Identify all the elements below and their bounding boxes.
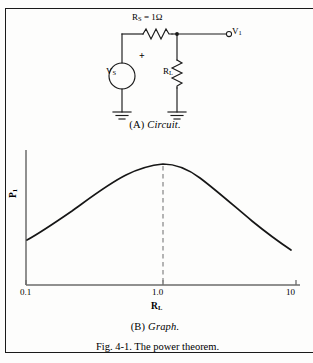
polarity-plus-marker: + (139, 50, 145, 61)
voltage-source-label: VS (106, 66, 116, 76)
y-axis-title: P1 (8, 189, 18, 198)
figure-caption: Fig. 4-1. The power theorem. (20, 341, 295, 352)
load-resistor-label: RL (163, 66, 173, 76)
panel-b-caption: (B) Graph. (60, 321, 250, 332)
series-resistor-label: RS = 1Ω (132, 12, 162, 22)
x-tick-label-0: 0.1 (20, 287, 31, 297)
panel-a-caption: (A) Circuit. (60, 119, 250, 130)
x-tick-label-2: 10 (286, 287, 295, 297)
ground-symbol-load (168, 112, 186, 119)
ground-symbol-source (113, 112, 131, 119)
load-resistor-symbol (172, 60, 182, 88)
graph-plot (26, 150, 300, 285)
x-axis-title: RL (151, 301, 162, 311)
output-terminal-label: V1 (232, 26, 242, 36)
series-resistor-symbol (143, 29, 172, 39)
output-terminal-circle (226, 31, 231, 36)
figure-container: RS = 1Ω V1 VS RL + (A) Circuit. 0.1 1.0 … (0, 0, 313, 363)
power-curve (27, 164, 291, 250)
x-tick-label-1: 1.0 (152, 287, 163, 297)
